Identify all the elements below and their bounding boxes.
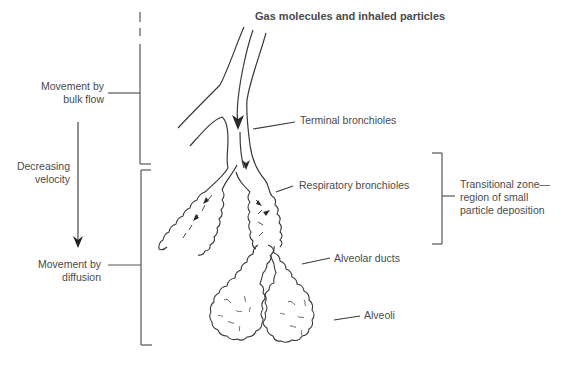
diffusion-label-line2: diffusion: [20, 271, 101, 284]
diagram-title: Gas molecules and inhaled particles: [255, 10, 445, 23]
right-alveoli-cluster: [261, 245, 314, 342]
alveolar-ducts-label: Alveolar ducts: [334, 252, 400, 265]
diffusion-bracket: [108, 170, 152, 345]
airway-diagram: Gas molecules and inhaled particles Move…: [0, 0, 561, 366]
bulk-flow-label: Movement by bulk flow: [20, 80, 104, 106]
transitional-zone-label: Transitional zone— region of small parti…: [460, 178, 550, 217]
bulk-flow-label-line2: bulk flow: [20, 93, 104, 106]
transitional-zone-line3: particle deposition: [460, 204, 550, 217]
left-respiratory-bronchiole: [159, 190, 224, 255]
terminal-bronchioles-label: Terminal bronchioles: [300, 114, 396, 127]
transitional-zone-bracket: [432, 153, 455, 244]
velocity-label-line1: Decreasing: [4, 160, 70, 173]
diffusion-label-line1: Movement by: [20, 258, 101, 271]
velocity-label: Decreasing velocity: [4, 160, 70, 186]
bronchiole-bifurcation: [205, 165, 272, 196]
diffusion-label: Movement by diffusion: [20, 258, 101, 284]
bulk-flow-label-line1: Movement by: [20, 80, 104, 93]
alveoli-label: Alveoli: [364, 309, 395, 322]
velocity-label-line2: velocity: [4, 173, 70, 186]
right-respiratory-bronchiole: [248, 192, 282, 249]
transitional-zone-line1: Transitional zone—: [460, 178, 550, 191]
respiratory-bronchioles-label: Respiratory bronchioles: [299, 179, 409, 192]
bulk-flow-bracket: [108, 12, 151, 164]
airflow-arrow-icon: [232, 115, 244, 130]
velocity-arrow-icon: [73, 122, 83, 248]
transitional-zone-line2: region of small: [460, 191, 550, 204]
upper-airway: [178, 27, 266, 180]
